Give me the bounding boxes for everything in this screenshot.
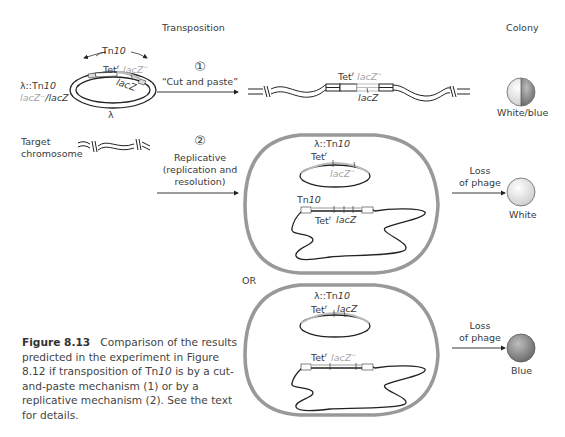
target-chromosome [78,139,150,152]
cell2-loss-2: of phage [450,333,510,344]
cell1-phage-lacz: lacZ− [330,168,355,180]
pathway-2-label-2: (replication and [150,165,250,176]
cell2-phage-tet: Tetr [311,304,327,316]
colony-blue [507,334,535,362]
pathway-2-number: ② [180,134,220,149]
or-label: OR [242,276,256,287]
pathway-2-label-3: resolution) [150,177,250,188]
donor-plasmid [70,72,156,108]
header-transposition: Transposition [162,23,225,34]
pathway-2-label-1: Replicative [150,153,250,164]
cell1-loss-2: of phage [450,178,510,189]
cell1-phage-tet: Tetr [311,151,327,163]
donor-name: λ::Tn10 [20,81,56,92]
cell2-loss-1: Loss [450,321,510,332]
target-label-1: Target [21,137,50,148]
cell-1 [245,135,438,273]
colony-white-label: White [509,210,537,221]
cell2-phage-lacz: lacZ [337,304,357,315]
figure-number: Figure 8.13 [22,336,90,348]
colony-white-blue [507,78,535,106]
cell1-chrom-lacz: lacZ [336,215,356,226]
lambda-label: λ [108,110,114,121]
figure-caption: Figure 8.13 Comparison of the results pr… [22,335,242,422]
cell2-chrom-tet: Tetr [311,352,327,364]
colony-white [507,178,535,206]
colony-white-blue-label: White/blue [497,108,548,119]
header-colony: Colony [506,23,539,34]
cell1-loss-1: Loss [450,166,510,177]
donor-tet-label: Tetr [103,64,119,76]
cell1-chrom-tn10: Tn10 [297,195,321,206]
product-lacz-minus-label: lacZ− [357,71,382,83]
pathway-1-label: “Cut and paste” [155,77,245,88]
cell2-chrom-lacz: lacZ− [331,352,356,364]
colony-blue-label: Blue [511,366,532,377]
cell2-phage-label: λ::Tn10 [314,291,350,302]
pathway-1-number: ① [180,60,220,75]
product-tet-label: Tetr [338,71,354,83]
cell1-phage-label: λ::Tn10 [314,139,350,150]
donor-genotype: lacZ⁻/lacZ [20,93,69,104]
target-label-2: chromosome [21,149,83,160]
cell1-chrom-tet: Tetr [315,215,331,227]
product-lacz-label: lacZ [358,93,378,104]
donor-lacz-minus-label: lacZ− [123,64,148,76]
tn10-label: Tn10 [102,46,126,57]
